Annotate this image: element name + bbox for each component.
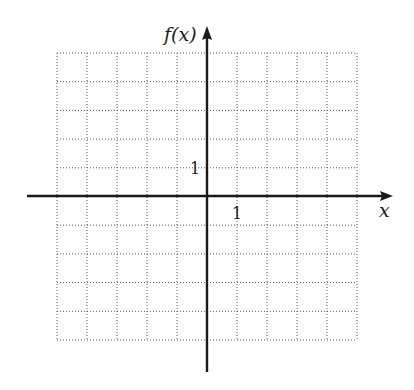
x-tick-label-1: 1 <box>232 204 242 223</box>
y-axis-arrow-icon <box>202 26 212 40</box>
coordinate-plane: f(x) x 1 1 <box>0 0 414 390</box>
x-axis-label: x <box>379 199 390 221</box>
y-tick-label-1: 1 <box>190 159 200 178</box>
y-axis-label: f(x) <box>162 23 197 45</box>
